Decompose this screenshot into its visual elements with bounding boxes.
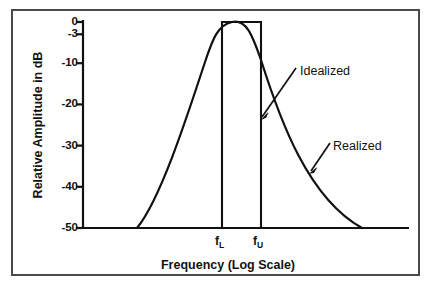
figure-container: Relative Amplitude in dB 0 -3 -10 -20 -3… bbox=[0, 0, 431, 289]
y-axis-tick-labels: 0 -3 -10 -20 -30 -40 -50 bbox=[34, 0, 78, 289]
idealized-response-rect bbox=[222, 22, 261, 228]
y-tick-label-40: -40 bbox=[61, 181, 78, 192]
y-tick-label-50: -50 bbox=[61, 222, 78, 233]
x-axis-title: Frequency (Log Scale) bbox=[83, 258, 373, 272]
y-tick-label-10: -10 bbox=[61, 57, 78, 68]
x-tick-label-fl: fL bbox=[215, 234, 224, 248]
x-tick-label-fu: fU bbox=[253, 234, 263, 248]
annotation-realized: Realized bbox=[333, 139, 382, 153]
y-tick-label-3: -3 bbox=[68, 28, 78, 39]
y-tick-label-0: 0 bbox=[72, 16, 78, 27]
y-tick-label-20: -20 bbox=[61, 98, 78, 109]
realized-response-curve bbox=[137, 22, 362, 228]
annotation-idealized: Idealized bbox=[300, 64, 350, 78]
x-tick-label-fu-sub: U bbox=[257, 240, 263, 250]
x-tick-label-fl-sub: L bbox=[219, 240, 224, 250]
y-tick-label-30: -30 bbox=[61, 140, 78, 151]
realized-annotation-leader bbox=[310, 143, 331, 174]
